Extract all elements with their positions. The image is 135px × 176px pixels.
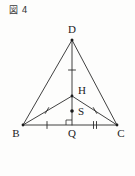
geometry-diagram: D B C Q H S bbox=[0, 0, 135, 176]
dot-B bbox=[22, 124, 25, 127]
label-H: H bbox=[78, 84, 86, 96]
dot-C bbox=[116, 124, 119, 127]
label-C: C bbox=[117, 127, 124, 139]
segment-BD bbox=[23, 40, 72, 125]
label-D: D bbox=[68, 23, 76, 35]
label-Q: Q bbox=[68, 127, 76, 139]
figure-container: 図 4 bbox=[0, 0, 135, 176]
label-S: S bbox=[78, 105, 84, 117]
dot-D bbox=[71, 39, 74, 42]
dot-H bbox=[71, 95, 74, 98]
right-angle-marker-at-Q bbox=[66, 120, 72, 125]
label-B: B bbox=[12, 127, 19, 139]
dot-S bbox=[70, 109, 74, 113]
